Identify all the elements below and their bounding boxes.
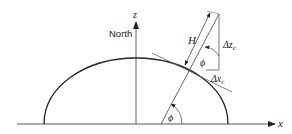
angle-arc-top (205, 47, 219, 56)
height-extension-top (207, 11, 219, 14)
angle-label-top: ϕ (200, 57, 205, 68)
angle-label-bottom: ϕ (168, 112, 173, 123)
normal-line (161, 14, 219, 124)
geodetic-diagram: x z North H ϕ ϕ Δzc Δxc (0, 0, 292, 134)
x-axis-label: x (277, 117, 283, 129)
delta-z-label: Δzc (222, 39, 237, 52)
z-axis-label: z (132, 9, 137, 20)
height-label: H (187, 34, 197, 46)
delta-x-label: Δxc (210, 73, 225, 86)
north-label: North (109, 28, 132, 39)
